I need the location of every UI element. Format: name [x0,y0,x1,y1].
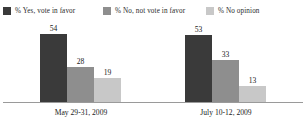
legend-swatch-no-not-vote-in-favor [103,7,111,15]
bar-value-label: 13 [239,76,266,85]
bar-value-label: 28 [67,57,94,66]
bar-slot: 54 [40,26,67,102]
bar-yes-vote-in-favor[interactable] [185,35,212,102]
legend-swatch-yes-vote-in-favor [3,7,11,15]
legend-swatch-no-opinion [206,7,214,15]
bar-value-label: 19 [94,68,121,77]
legend-item-no-opinion[interactable]: % No opinion [206,4,260,18]
legend-label-yes-vote-in-favor: % Yes, vote in favor [15,7,75,16]
bar-no-opinion[interactable] [239,86,266,102]
bar-value-label: 33 [212,50,239,59]
legend-item-no-not-vote-in-favor[interactable]: % No, not vote in favor [103,4,185,18]
x-axis-baseline [3,102,303,103]
bar-chart: % Yes, vote in favor % No, not vote in f… [0,0,306,123]
bar-value-label: 54 [40,24,67,33]
bar-value-label: 53 [185,25,212,34]
bar-slot: 53 [185,26,212,102]
clipped-header-sliver [0,0,306,3]
category-label-july-10-12-2009: July 10-12, 2009 [156,107,296,118]
x-axis-category-labels: May 29-31, 2009 July 10-12, 2009 [0,107,306,121]
bar-no-opinion[interactable] [94,78,121,102]
category-label-may-29-31-2009: May 29-31, 2009 [11,107,151,118]
bar-slot: 13 [239,26,266,102]
legend-label-no-opinion: % No opinion [218,7,260,16]
bar-no-not-vote-in-favor[interactable] [67,67,94,102]
bar-slot: 33 [212,26,239,102]
legend-label-no-not-vote-in-favor: % No, not vote in favor [115,7,185,16]
bar-slot: 28 [67,26,94,102]
bar-yes-vote-in-favor[interactable] [40,34,67,102]
plot-area: 54 28 19 53 33 13 [0,26,306,102]
legend-item-yes-vote-in-favor[interactable]: % Yes, vote in favor [3,4,75,18]
bar-no-not-vote-in-favor[interactable] [212,60,239,102]
chart-legend: % Yes, vote in favor % No, not vote in f… [0,4,306,18]
bar-slot: 19 [94,26,121,102]
